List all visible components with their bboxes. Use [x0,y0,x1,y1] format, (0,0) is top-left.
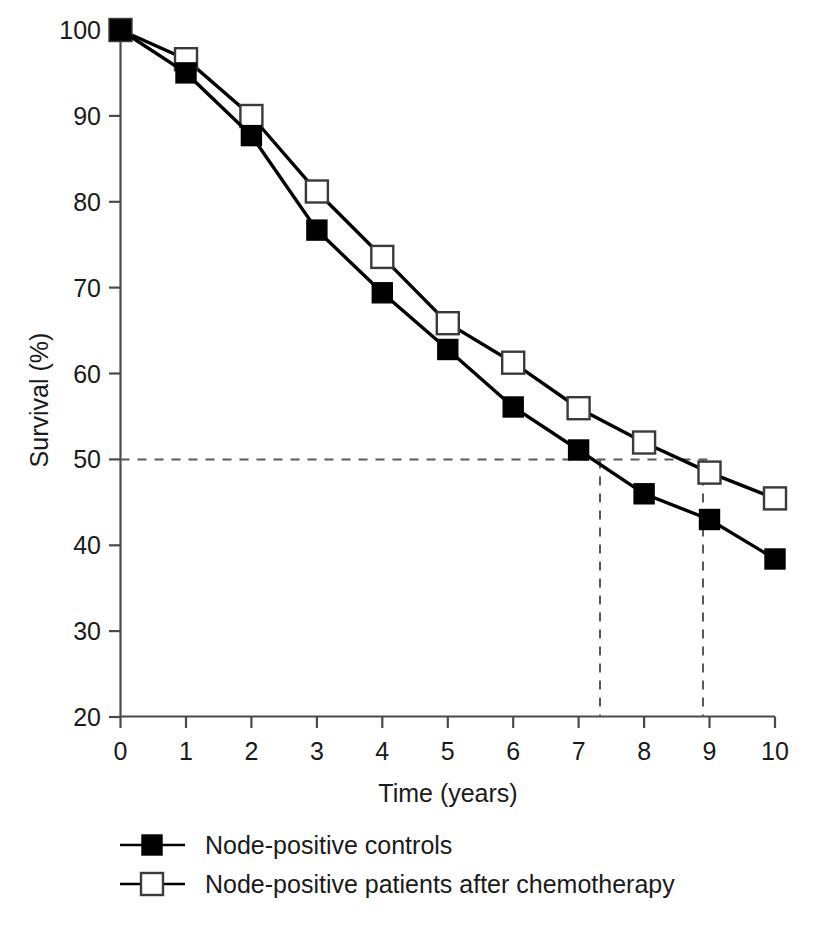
data-point-marker [633,432,655,454]
y-axis: 100 90 80 70 60 50 40 30 20 Survival (%) [25,16,121,731]
data-point-marker [700,510,720,530]
data-point-marker [372,283,392,303]
x-tick-label: 9 [703,737,717,765]
series-line-chemotherapy [121,30,776,498]
data-point-marker [569,440,589,460]
data-point-marker [306,181,328,203]
x-tick-label: 1 [179,737,193,765]
y-tick-label: 40 [73,531,101,559]
y-tick-label: 100 [59,16,101,44]
y-tick-label: 30 [73,617,101,645]
x-tick-label: 10 [761,737,789,765]
y-tick-marks [109,30,121,717]
legend-item-controls[interactable]: Node-positive controls [120,831,452,859]
x-tick-label: 6 [506,737,520,765]
y-tick-labels: 100 90 80 70 60 50 40 30 20 [59,16,101,731]
data-point-marker [765,549,785,569]
x-tick-label: 0 [114,737,128,765]
data-point-marker [176,63,196,83]
y-tick-label: 80 [73,188,101,216]
x-tick-label: 8 [637,737,651,765]
series-markers-chemotherapy [110,19,787,509]
survival-curve-figure: 100 90 80 70 60 50 40 30 20 Survival (%) [0,0,822,927]
legend: Node-positive controls Node-positive pat… [120,831,675,898]
data-point-marker [437,312,459,334]
x-tick-label: 3 [310,737,324,765]
legend-label-controls: Node-positive controls [205,831,452,859]
chart-canvas: 100 90 80 70 60 50 40 30 20 Survival (%) [0,0,822,927]
data-point-marker [307,220,327,240]
series-markers-controls [111,20,786,569]
data-point-marker [503,397,523,417]
data-point-marker [371,246,393,268]
y-axis-title: Survival (%) [25,333,53,468]
data-point-marker [568,397,590,419]
data-point-marker [241,126,261,146]
series-node-positive-controls [111,20,786,569]
x-tick-label: 4 [375,737,389,765]
data-point-marker [699,462,721,484]
x-tick-marks [121,717,776,729]
x-axis: 0 1 2 3 4 5 6 7 8 9 10 Time (years) [114,717,789,808]
series-node-positive-chemotherapy [110,19,787,509]
data-point-marker [764,487,786,509]
x-tick-label: 2 [244,737,258,765]
x-tick-label: 5 [441,737,455,765]
data-point-marker [240,105,262,127]
y-tick-label: 20 [73,703,101,731]
series-line-controls [121,30,776,559]
x-tick-labels: 0 1 2 3 4 5 6 7 8 9 10 [114,737,789,765]
legend-label-chemotherapy: Node-positive patients after chemotherap… [205,870,675,898]
legend-item-chemotherapy[interactable]: Node-positive patients after chemotherap… [120,870,675,898]
data-point-marker [634,484,654,504]
data-point-marker [111,20,131,40]
y-tick-label: 60 [73,360,101,388]
data-point-marker [438,340,458,360]
data-point-marker [502,352,524,374]
reference-annotations [121,459,710,716]
legend-marker-filled-square [142,835,162,855]
y-tick-label: 90 [73,102,101,130]
y-tick-label: 50 [73,445,101,473]
y-tick-label: 70 [73,274,101,302]
legend-marker-open-square [141,873,163,895]
x-axis-title: Time (years) [378,779,517,807]
x-tick-label: 7 [572,737,586,765]
